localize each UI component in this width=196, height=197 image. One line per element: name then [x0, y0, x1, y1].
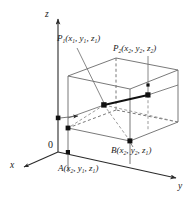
- box-top-edge-back-left: [68, 58, 116, 76]
- p2-close-paren: ): [153, 43, 156, 53]
- point-label-p2: P2(x2, y2, z2): [113, 44, 156, 53]
- y-axis-label: y: [178, 182, 182, 192]
- leader-line-p1: [77, 48, 104, 103]
- point-dot-z1-tick: [56, 116, 61, 121]
- box-bottom-edge-front-left: [68, 128, 130, 141]
- point-dot-p2-top: [146, 83, 149, 86]
- point-dot-p2: [145, 92, 150, 97]
- box-bottom-edge-back-left: [68, 110, 116, 128]
- p2-letter: P: [113, 43, 119, 53]
- point-markers: [56, 83, 151, 154]
- p2-coord-z-index: 2: [150, 48, 153, 54]
- p2-coord-y: y: [136, 43, 140, 53]
- p2-coord-x-index: 2: [128, 48, 131, 54]
- box-bottom-face: [68, 110, 178, 141]
- point-label-a: A(x2, y1, z1): [58, 164, 98, 173]
- a-close-paren: ): [95, 163, 98, 173]
- p1-index: 1: [63, 38, 66, 44]
- p2-index: 2: [119, 48, 122, 54]
- a-coord-z-index: 1: [93, 168, 96, 174]
- p1-coord-y-index: 1: [84, 38, 87, 44]
- origin-label: 0: [48, 140, 53, 150]
- point-dot-a-foot: [66, 150, 70, 154]
- a-coord-y-index: 1: [82, 168, 85, 174]
- z-axis-label: z: [45, 10, 49, 20]
- b-coord-x: x: [120, 145, 124, 155]
- p1-coord-x-index: 1: [72, 38, 75, 44]
- three-d-distance-figure: z y x 0 P1(x1, y1, z1) P2(x2, y2, z2) B(…: [0, 0, 196, 197]
- b-coord-x-index: 2: [124, 150, 127, 156]
- helper-p1-to-bottom-right: [104, 105, 178, 122]
- box-top-edge-back-right: [116, 58, 178, 70]
- point-dot-b: [127, 138, 132, 143]
- point-label-p1: P1(x1, y1, z1): [57, 34, 100, 43]
- b-coord-z-index: 1: [146, 150, 149, 156]
- x-axis: [24, 152, 58, 167]
- a-coord-x-index: 2: [71, 168, 74, 174]
- box-top-edge-front-left: [68, 76, 130, 89]
- mid-plane-edge-right: [148, 85, 178, 95]
- point-label-b: B(x2, y2, z1): [111, 146, 151, 155]
- b-coord-y-index: 2: [135, 150, 138, 156]
- p2-coord-y-index: 2: [140, 48, 143, 54]
- point-dot-p1: [101, 102, 106, 107]
- x-axis-label: x: [10, 161, 14, 171]
- p1-close-paren: ): [97, 33, 100, 43]
- p1-coord-z-index: 1: [94, 38, 97, 44]
- p1-coord-y: y: [80, 33, 84, 43]
- segment-p1-p2: [104, 95, 148, 105]
- a-coord-x: x: [67, 163, 71, 173]
- box-bottom-edge-back-right: [116, 110, 178, 122]
- point-dot-a: [66, 126, 71, 131]
- box-top-edge-front-right: [130, 70, 178, 89]
- b-close-paren: ): [148, 145, 151, 155]
- p1-letter: P: [57, 33, 63, 43]
- box-bottom-edge-front-right: [130, 122, 178, 141]
